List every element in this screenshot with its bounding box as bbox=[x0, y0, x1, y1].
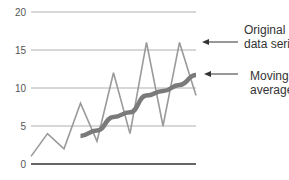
arrow-left-icon bbox=[202, 39, 209, 45]
series-group bbox=[31, 42, 196, 156]
annotation-moving-average: Movingaverage bbox=[204, 69, 289, 97]
annotation-text: Moving bbox=[250, 69, 289, 83]
y-tick-label-20: 20 bbox=[15, 7, 27, 18]
series-line-original bbox=[31, 42, 196, 156]
y-tick-label-10: 10 bbox=[15, 83, 27, 94]
annotation-text: Original bbox=[244, 23, 285, 37]
y-axis-ticks: 05101520 bbox=[15, 7, 27, 170]
y-tick-label-0: 0 bbox=[20, 159, 26, 170]
annotation-text: average bbox=[250, 83, 289, 97]
annotation-text: data series bbox=[244, 37, 289, 51]
annotation-original: Originaldata series bbox=[202, 23, 289, 51]
chart: 05101520 Originaldata seriesMovingaverag… bbox=[0, 0, 289, 180]
y-tick-label-15: 15 bbox=[15, 45, 27, 56]
annotations: Originaldata seriesMovingaverage bbox=[202, 23, 289, 97]
arrow-left-icon bbox=[204, 71, 211, 77]
y-tick-label-5: 5 bbox=[20, 121, 26, 132]
